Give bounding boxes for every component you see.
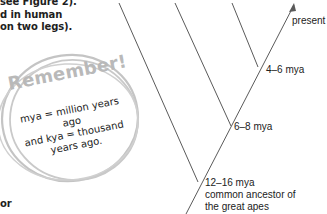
branch-line-3: [232, 3, 258, 67]
label-6-8-mya: 6–8 mya: [234, 121, 272, 133]
label-present: present: [292, 15, 325, 27]
label-great-apes: the great apes: [205, 201, 269, 213]
arrow-head-icon: [289, 3, 296, 12]
branch-line-1: [119, 3, 198, 182]
evolution-tree-diagram: [0, 0, 327, 214]
label-common-ancestor: common ancestor of: [205, 189, 296, 201]
label-12-16-mya: 12–16 mya: [205, 177, 254, 189]
branch-line-2: [175, 3, 231, 126]
label-4-6-mya: 4–6 mya: [266, 64, 304, 76]
